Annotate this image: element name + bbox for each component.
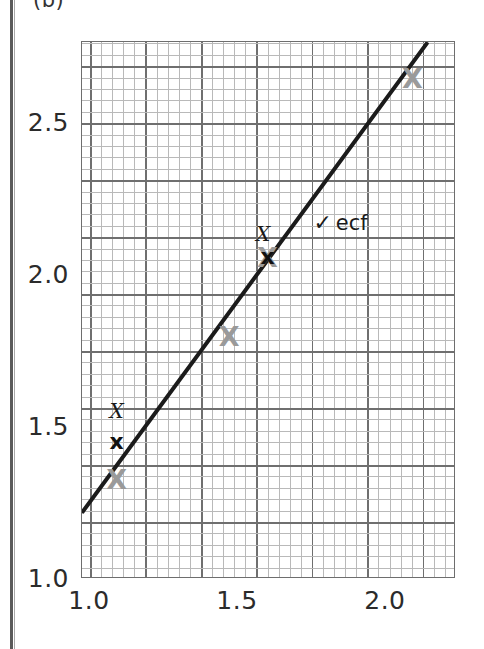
figure-page: (b) XXXXxxXX✓ecf 1.01.52.02.5 1.01.52.0 <box>0 0 484 649</box>
best-fit-line <box>81 41 430 514</box>
ecf-annotation-label: ecf <box>336 210 368 234</box>
y-axis-tick-label: 2.5 <box>28 108 69 137</box>
x-axis-tick-label: 2.0 <box>364 586 405 615</box>
marked-data-point: x <box>110 431 124 453</box>
plot-area: XXXXxxXX✓ecf <box>81 41 455 578</box>
data-point-marker: X <box>402 64 423 91</box>
data-layer: XXXXxxXX✓ecf <box>82 42 454 577</box>
y-axis-tick-label: 1.5 <box>28 412 69 441</box>
check-icon: ✓ <box>313 209 331 234</box>
y-axis-tick-labels: 1.01.52.02.5 <box>0 0 69 649</box>
cross-annotation-mark: X <box>109 401 123 421</box>
cross-annotation-mark: X <box>256 224 270 244</box>
marked-data-point: x <box>260 246 274 268</box>
data-point-marker: X <box>219 322 240 349</box>
x-axis-tick-label: 1.5 <box>216 586 257 615</box>
x-axis-tick-label: 1.0 <box>68 586 109 615</box>
data-point-marker: X <box>106 465 127 492</box>
y-axis-tick-label: 1.0 <box>28 564 69 593</box>
y-axis-tick-label: 2.0 <box>28 260 69 289</box>
ecf-annotation: ✓ecf <box>313 209 367 234</box>
